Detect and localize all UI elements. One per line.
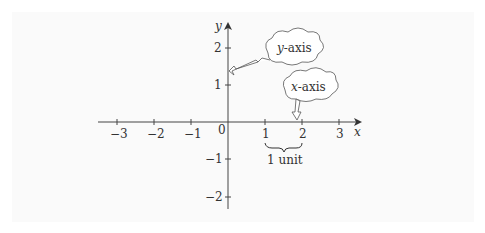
x-tick-label: −3 [110, 127, 128, 141]
y-tick-label: −2 [205, 190, 223, 204]
y-tick-label: 2 [214, 41, 222, 55]
x-callout-text: -axis [298, 80, 326, 94]
y-tick-label: −1 [205, 152, 223, 166]
x-tick-label: 3 [336, 127, 344, 141]
y-callout-text: -axis [284, 41, 312, 55]
svg-text:y-axis: y-axis [276, 41, 312, 55]
x-tick-label: −2 [147, 127, 165, 141]
svg-text:x-axis: x-axis [291, 80, 326, 94]
x-axis: x −3 −2 −1 1 2 3 [98, 119, 361, 141]
x-tick-label: −1 [184, 127, 202, 141]
unit-brace: 1 unit [265, 143, 303, 167]
x-tick-label: 2 [299, 127, 307, 141]
origin-label: 0 [218, 123, 226, 137]
y-axis: y 2 1 −1 −2 [205, 19, 231, 209]
x-axis-label: x [354, 125, 361, 139]
y-axis-label: y [214, 19, 222, 33]
y-axis-callout: y-axis [229, 28, 324, 75]
x-axis-callout: x-axis [283, 68, 338, 120]
coordinate-plane-diagram: x −3 −2 −1 1 2 3 y 2 1 −1 −2 0 [0, 0, 485, 233]
y-tick-label: 1 [214, 78, 222, 92]
brace-label: 1 unit [267, 153, 303, 167]
x-tick-label: 1 [262, 127, 270, 141]
